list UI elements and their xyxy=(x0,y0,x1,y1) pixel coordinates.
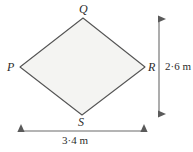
rhombus-diagram-svg xyxy=(0,0,193,152)
vertex-label-p: P xyxy=(7,61,14,73)
vertical-dimension-label: 2·6 m xyxy=(165,61,191,72)
vertex-label-r: R xyxy=(148,61,155,73)
vertex-label-q: Q xyxy=(79,3,88,15)
horizontal-dimension-label: 3·4 m xyxy=(62,135,88,146)
vertex-label-s: S xyxy=(78,116,84,128)
rhombus-shape xyxy=(20,18,145,115)
figure-canvas: P Q R S 2·6 m 3·4 m xyxy=(0,0,193,152)
